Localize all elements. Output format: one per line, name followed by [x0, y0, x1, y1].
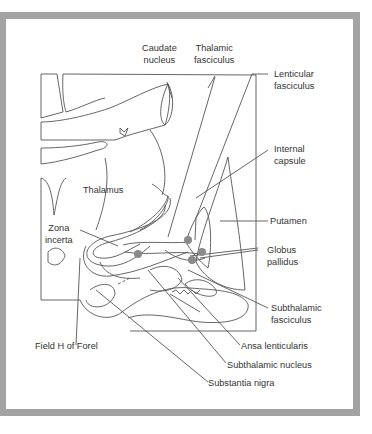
label-internal-capsule: Internal capsule	[274, 143, 306, 167]
label-caudate-nucleus: Caudate nucleus	[142, 42, 177, 66]
label-thalamic-fasciculus: Thalamic fasciculus	[194, 42, 234, 66]
globus-pallidus-dots	[0, 0, 372, 434]
label-substantia-nigra: Substantia nigra	[208, 377, 274, 389]
label-subthalamic-fasciculus: Subthalamic fasciculus	[271, 302, 322, 326]
label-subthalamic-nucleus: Subthalamic nucleus	[227, 359, 312, 371]
label-field-h-of-forel: Field H of Forel	[35, 340, 98, 352]
label-putamen: Putamen	[270, 215, 307, 227]
label-globus-pallidus: Globus pallidus	[267, 244, 298, 268]
label-lenticular-fasciculus: Lenticular fasciculus	[274, 68, 314, 92]
label-thalamus: Thalamus	[83, 184, 123, 196]
label-ansa-lenticularis: Ansa lenticularis	[241, 340, 308, 352]
label-zona-incerta: Zona incerta	[45, 222, 73, 246]
